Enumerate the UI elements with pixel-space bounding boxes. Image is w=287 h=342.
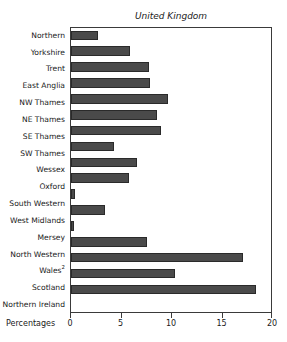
bar-row [71, 44, 271, 60]
bar [71, 110, 157, 120]
category-label: North Western [0, 250, 67, 259]
category-label: East Anglia [0, 81, 67, 90]
x-axis: 05101520 [70, 313, 272, 337]
bar-row [71, 250, 271, 266]
bar-row [71, 187, 271, 203]
x-axis-title: Percentages [6, 319, 55, 328]
bar-row [71, 234, 271, 250]
bar-row [71, 123, 271, 139]
bar-row [71, 155, 271, 171]
category-label: Northern [0, 31, 67, 40]
x-tick-label: 20 [267, 319, 277, 328]
x-tick-mark [222, 313, 223, 318]
bar-row [71, 282, 271, 298]
bar-row [71, 203, 271, 219]
bar [71, 31, 98, 41]
bar [71, 253, 243, 263]
bar [71, 285, 256, 295]
x-tick-mark [70, 313, 71, 318]
bar [71, 189, 75, 199]
bar-row [71, 219, 271, 235]
category-label: NE Thames [0, 115, 67, 124]
x-tick-label: 10 [166, 319, 176, 328]
cropped-title-strip [0, 0, 287, 8]
x-tick-mark [171, 313, 172, 318]
bar-row [71, 60, 271, 76]
category-label: West Midlands [0, 216, 67, 225]
bar [71, 173, 129, 183]
bar [71, 46, 130, 56]
category-label: Wales2 [0, 266, 67, 275]
category-label: SW Thames [0, 149, 67, 158]
bar-row [71, 92, 271, 108]
category-label: Trent [0, 64, 67, 73]
category-label: SE Thames [0, 132, 67, 141]
category-label: NW Thames [0, 98, 67, 107]
category-label: Oxford [0, 182, 67, 191]
bar [71, 221, 74, 231]
bar [71, 269, 175, 279]
bar [71, 62, 149, 72]
bar-row [71, 76, 271, 92]
bars-layer [71, 28, 271, 312]
x-tick-mark [271, 313, 272, 318]
category-label: Wessex [0, 165, 67, 174]
bar [71, 94, 168, 104]
category-label: South Western [0, 199, 67, 208]
bar [71, 205, 105, 215]
bar-row [71, 28, 271, 44]
plot-frame [70, 27, 272, 313]
bar [71, 142, 114, 152]
bar-row [71, 171, 271, 187]
bar-row [71, 139, 271, 155]
bar [71, 237, 147, 247]
category-axis-labels: NorthernYorkshireTrentEast AngliaNW Tham… [0, 27, 67, 313]
x-tick-mark [121, 313, 122, 318]
bar-row [71, 266, 271, 282]
category-footnote-marker: 2 [62, 265, 65, 271]
chart-subtitle: United Kingdom [70, 11, 272, 21]
x-tick-label: 15 [216, 319, 226, 328]
category-label: Yorkshire [0, 48, 67, 57]
category-label: Northern Ireland [0, 300, 67, 309]
x-tick-label: 5 [118, 319, 123, 328]
x-tick-label: 0 [67, 319, 72, 328]
category-label: Scotland [0, 283, 67, 292]
bar [71, 158, 137, 168]
bar-row [71, 107, 271, 123]
bar [71, 78, 150, 88]
bar [71, 126, 161, 136]
category-label: Mersey [0, 233, 67, 242]
